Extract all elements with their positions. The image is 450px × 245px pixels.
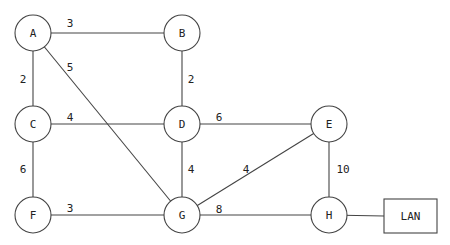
edge-e-g [182,124,329,215]
node-d: D [164,106,200,142]
edge-weight-label: 5 [67,61,74,74]
node-label: D [179,118,186,131]
edge-weight-label: 6 [20,163,27,176]
node-h: H [311,197,347,233]
node-label: B [179,27,186,40]
edge-weight-label: 3 [67,202,74,215]
node-label: F [30,209,37,222]
edge-weight-label: 8 [216,203,223,216]
edge-weight-label: 4 [188,163,195,176]
edge-weight-label: 3 [67,17,74,30]
node-b: B [164,15,200,51]
edge-weight-label: 2 [188,73,195,86]
edge-weight-label: 2 [20,73,27,86]
edge-weight-label: 10 [336,163,349,176]
node-e: E [311,106,347,142]
network-graph: LAN ABCDEFGH 3252466441038 [0,0,450,245]
lan-label: LAN [401,210,421,223]
node-label: G [179,209,186,222]
node-label: C [30,118,37,131]
node-c: C [15,106,51,142]
node-f: F [15,197,51,233]
node-label: A [30,27,37,40]
node-label: H [326,209,333,222]
node-label: E [326,118,333,131]
edge-weight-label: 4 [67,111,74,124]
edge-weight-label: 6 [216,111,223,124]
node-a: A [15,15,51,51]
edge-weight-label: 4 [243,163,250,176]
node-g: G [164,197,200,233]
